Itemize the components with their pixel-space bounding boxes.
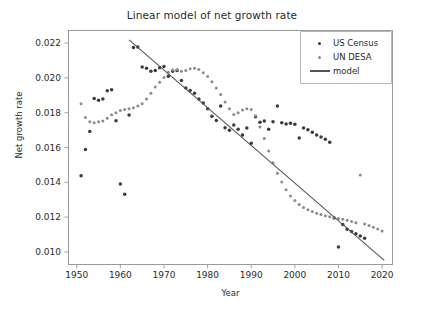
data-point — [368, 224, 371, 227]
data-point — [84, 148, 88, 152]
y-tick-label: 0.020 — [35, 73, 61, 83]
data-point — [79, 174, 83, 178]
data-point — [276, 172, 279, 175]
data-point — [328, 141, 332, 145]
data-point — [193, 91, 197, 95]
data-point — [354, 221, 357, 224]
y-tick-label: 0.010 — [35, 247, 61, 257]
data-point — [171, 69, 174, 72]
data-point — [293, 123, 297, 127]
legend-item-model[interactable]: model — [301, 64, 391, 78]
data-point — [123, 108, 126, 111]
y-tick-label: 0.022 — [35, 38, 61, 48]
data-point — [119, 182, 123, 186]
line-marker-icon — [310, 70, 330, 71]
data-point — [92, 97, 96, 101]
data-point — [297, 136, 301, 140]
chart-figure: Linear model of net growth rate Net grow… — [0, 0, 424, 310]
legend-item-us-census[interactable]: US Census — [301, 36, 391, 50]
data-point — [145, 67, 149, 71]
data-point — [245, 107, 248, 110]
data-point — [97, 120, 100, 123]
data-point — [149, 92, 152, 95]
x-tick-label: 1980 — [196, 270, 219, 280]
legend-line-swatch — [306, 70, 333, 71]
data-point — [363, 223, 366, 226]
data-point — [341, 218, 344, 221]
data-point — [381, 230, 384, 233]
data-point — [289, 194, 292, 197]
data-point — [298, 203, 301, 206]
data-point — [359, 174, 362, 177]
data-point — [267, 127, 271, 131]
data-point — [210, 114, 214, 118]
data-point — [180, 79, 184, 83]
data-point — [132, 106, 135, 109]
x-tick-label: 2010 — [327, 270, 350, 280]
x-tick-label: 1970 — [153, 270, 176, 280]
legend-dot-swatch — [306, 42, 333, 45]
data-point — [263, 119, 267, 123]
data-point — [162, 76, 165, 79]
data-point — [320, 213, 323, 216]
x-tick-label: 1990 — [240, 270, 263, 280]
data-point — [93, 121, 96, 124]
data-point — [258, 125, 261, 128]
data-point — [110, 113, 113, 116]
x-axis-label: Year — [68, 288, 393, 298]
data-point — [145, 98, 148, 101]
legend-label: model — [333, 66, 359, 76]
data-point — [337, 245, 341, 249]
data-point — [206, 75, 209, 78]
data-point — [267, 149, 270, 152]
x-tick-label: 2020 — [371, 270, 394, 280]
y-tick-label: 0.018 — [35, 108, 61, 118]
data-point — [140, 65, 144, 69]
data-point — [88, 120, 91, 123]
data-point — [319, 135, 323, 139]
y-axis-tick-labels: 0.0100.0120.0140.0160.0180.0200.022 — [0, 30, 61, 265]
data-point — [245, 126, 249, 130]
data-point — [88, 130, 92, 134]
x-axis-tick-labels: 19501960197019801990200020102020 — [68, 270, 393, 284]
data-point — [359, 234, 363, 238]
data-point — [376, 227, 379, 230]
data-point — [154, 69, 158, 73]
data-point — [224, 100, 227, 103]
data-point — [315, 133, 319, 137]
data-point — [285, 188, 288, 191]
data-point — [80, 102, 83, 105]
data-point — [223, 126, 227, 130]
data-point — [101, 120, 104, 123]
data-point — [228, 107, 231, 110]
data-point — [280, 121, 284, 125]
data-point — [302, 206, 305, 209]
data-point — [306, 208, 309, 211]
data-point — [219, 93, 222, 96]
chart-legend: US CensusUN DESAmodel — [300, 31, 392, 84]
data-point — [162, 65, 166, 69]
data-point — [189, 67, 192, 70]
data-point — [180, 70, 183, 73]
data-point — [97, 98, 101, 102]
data-point — [241, 109, 244, 112]
data-point — [154, 85, 157, 88]
data-point — [284, 122, 288, 126]
data-point — [84, 116, 87, 119]
legend-item-un-desa[interactable]: UN DESA — [301, 50, 391, 64]
dot-marker-icon — [318, 56, 321, 59]
data-point — [350, 220, 353, 223]
legend-label: UN DESA — [333, 52, 372, 62]
chart-title: Linear model of net growth rate — [0, 9, 424, 21]
data-point — [197, 68, 200, 71]
y-tick-label: 0.014 — [35, 177, 61, 187]
x-tick-label: 2000 — [283, 270, 306, 280]
data-point — [324, 137, 328, 141]
data-point — [219, 104, 223, 108]
data-point — [237, 111, 240, 114]
data-point — [127, 113, 131, 117]
data-point — [236, 127, 240, 131]
data-point — [280, 180, 283, 183]
y-tick-label: 0.016 — [35, 143, 61, 153]
legend-label: US Census — [333, 38, 378, 48]
